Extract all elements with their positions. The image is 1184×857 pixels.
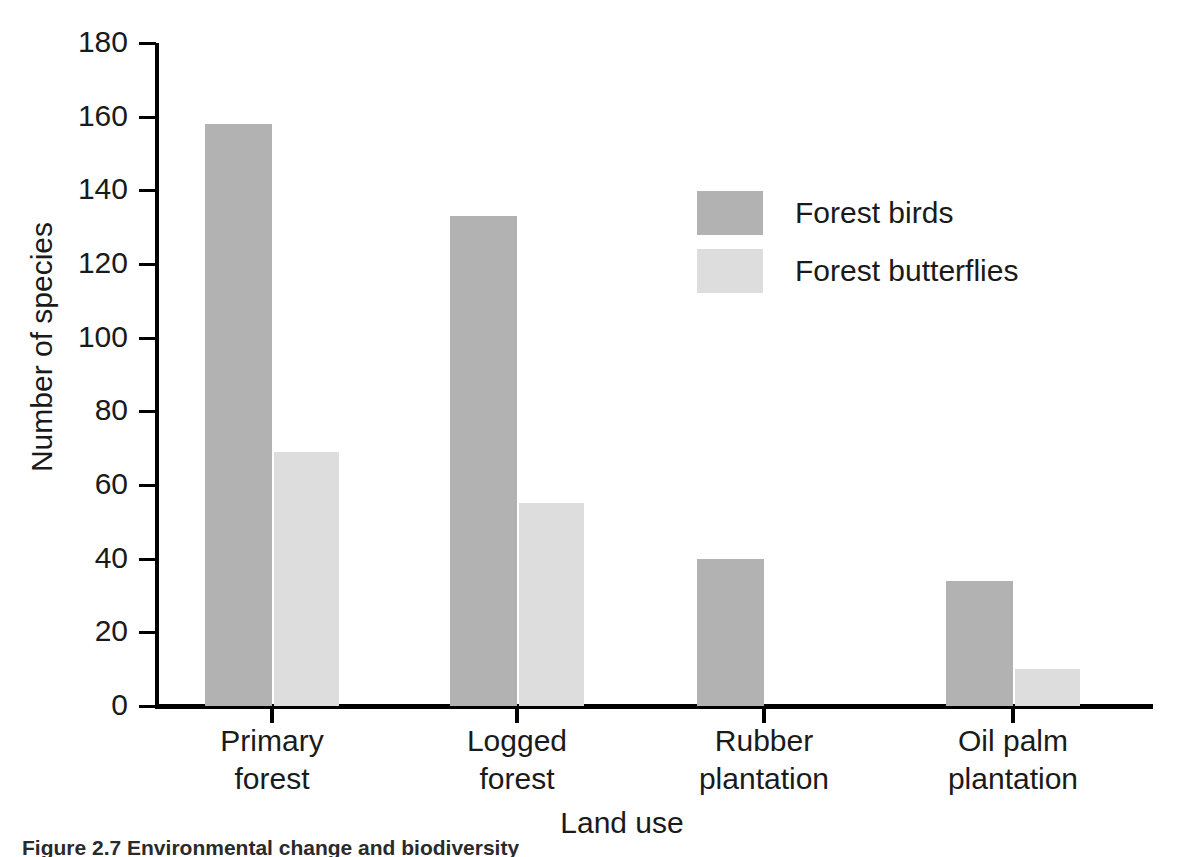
bar-forest-butterflies-logged-forest — [519, 503, 584, 706]
figure-caption: Figure 2.7 Environmental change and biod… — [22, 836, 519, 857]
bar-forest-birds-rubber-plantation — [697, 559, 764, 706]
x-tick-mark — [515, 706, 519, 723]
bar-forest-butterflies-oil-palm-plantation — [1015, 669, 1080, 706]
x-category-line: Rubber — [634, 722, 894, 760]
legend-swatch-forest-birds — [697, 191, 763, 235]
legend-swatch-forest-butterflies — [697, 249, 763, 293]
x-category-label: Loggedforest — [387, 722, 647, 798]
bar-forest-birds-oil-palm-plantation — [946, 581, 1013, 706]
plot-bars-area — [0, 0, 1184, 706]
x-tick-mark — [270, 706, 274, 723]
x-category-label: Oil palmplantation — [883, 722, 1143, 798]
legend-entry-forest-butterflies: Forest butterflies — [697, 242, 1018, 300]
figure-container: Number of species 1801601401201008060402… — [0, 0, 1184, 857]
x-category-line: Oil palm — [883, 722, 1143, 760]
x-tick-mark — [762, 706, 766, 723]
x-tick-mark — [1011, 706, 1015, 723]
bar-forest-birds-primary-forest — [205, 124, 272, 706]
x-category-line: Primary — [142, 722, 402, 760]
x-category-line: forest — [142, 760, 402, 798]
x-category-line: Logged — [387, 722, 647, 760]
x-category-label: Primaryforest — [142, 722, 402, 798]
x-category-line: forest — [387, 760, 647, 798]
x-category-line: plantation — [883, 760, 1143, 798]
x-axis-label: Land use — [442, 806, 802, 840]
x-category-line: plantation — [634, 760, 894, 798]
bar-forest-birds-logged-forest — [450, 216, 517, 706]
legend-label-forest-butterflies: Forest butterflies — [795, 254, 1018, 288]
legend-entry-forest-birds: Forest birds — [697, 184, 1018, 242]
x-category-label: Rubberplantation — [634, 722, 894, 798]
chart-legend: Forest birds Forest butterflies — [697, 184, 1018, 300]
bar-forest-butterflies-primary-forest — [274, 452, 339, 706]
legend-label-forest-birds: Forest birds — [795, 196, 953, 230]
